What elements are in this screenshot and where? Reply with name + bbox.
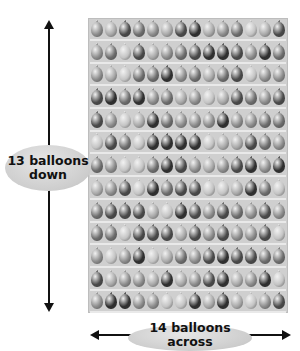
balloon-icon <box>231 90 243 105</box>
row-shelf <box>90 152 286 154</box>
balloon-icon <box>231 158 243 173</box>
balloon-icon <box>161 181 173 196</box>
balloon-icon <box>119 272 131 287</box>
balloon-icon <box>231 22 243 37</box>
balloon-icon <box>175 294 187 309</box>
balloon-icon <box>259 204 271 219</box>
balloon-icon <box>133 113 145 128</box>
balloon-icon <box>217 45 229 60</box>
balloon-icon <box>133 272 145 287</box>
row-shelf <box>90 107 286 109</box>
balloon-icon <box>189 67 201 82</box>
arrowhead-up-icon <box>44 20 54 29</box>
balloon-row <box>90 132 286 154</box>
row-shelf <box>90 311 286 313</box>
balloon-row <box>90 246 286 268</box>
arrowhead-left-icon <box>90 330 99 340</box>
balloon-icon <box>273 158 285 173</box>
balloon-icon <box>133 45 145 60</box>
balloon-icon <box>273 272 285 287</box>
balloon-icon <box>231 204 243 219</box>
balloon-icon <box>91 294 103 309</box>
balloon-icon <box>189 113 201 128</box>
balloon-icon <box>217 249 229 264</box>
balloon-icon <box>161 226 173 241</box>
balloon-icon <box>203 249 215 264</box>
balloon-icon <box>133 158 145 173</box>
balloon-row <box>90 19 286 41</box>
balloon-icon <box>161 204 173 219</box>
balloon-icon <box>189 249 201 264</box>
balloon-icon <box>147 204 159 219</box>
balloon-icon <box>133 22 145 37</box>
balloon-icon <box>245 204 257 219</box>
balloon-icon <box>175 113 187 128</box>
balloon-icon <box>161 90 173 105</box>
balloon-icon <box>245 113 257 128</box>
balloon-row <box>90 42 286 64</box>
rows-count-label-line1: 13 balloons <box>7 153 88 168</box>
balloon-icon <box>259 22 271 37</box>
balloon-icon <box>133 294 145 309</box>
balloon-icon <box>119 294 131 309</box>
balloon-icon <box>259 67 271 82</box>
balloon-icon <box>91 158 103 173</box>
row-shelf <box>90 243 286 245</box>
balloon-row <box>90 87 286 109</box>
balloon-icon <box>105 204 117 219</box>
balloon-icon <box>161 249 173 264</box>
balloon-icon <box>147 249 159 264</box>
balloon-icon <box>119 181 131 196</box>
balloon-row <box>90 223 286 245</box>
balloon-icon <box>231 67 243 82</box>
balloon-grid-panel <box>88 18 288 313</box>
balloon-icon <box>259 294 271 309</box>
balloon-icon <box>273 204 285 219</box>
balloon-icon <box>147 67 159 82</box>
balloon-icon <box>203 272 215 287</box>
balloon-icon <box>105 226 117 241</box>
balloon-icon <box>259 135 271 150</box>
arrowhead-right-icon <box>282 330 291 340</box>
balloon-icon <box>147 45 159 60</box>
balloon-icon <box>105 135 117 150</box>
balloon-icon <box>147 22 159 37</box>
balloon-icon <box>203 113 215 128</box>
balloon-icon <box>245 90 257 105</box>
balloon-icon <box>217 226 229 241</box>
balloon-icon <box>147 135 159 150</box>
balloon-row <box>90 64 286 86</box>
balloon-icon <box>273 249 285 264</box>
balloon-icon <box>161 22 173 37</box>
balloon-icon <box>91 135 103 150</box>
balloon-icon <box>245 249 257 264</box>
balloon-icon <box>217 67 229 82</box>
balloon-icon <box>189 294 201 309</box>
balloon-row <box>90 110 286 132</box>
balloon-icon <box>161 67 173 82</box>
balloon-icon <box>259 45 271 60</box>
balloon-icon <box>105 22 117 37</box>
balloon-icon <box>147 113 159 128</box>
balloon-icon <box>105 158 117 173</box>
balloon-icon <box>133 135 145 150</box>
balloon-icon <box>203 204 215 219</box>
balloon-icon <box>273 67 285 82</box>
columns-count-label-text: 14 balloons across <box>128 321 252 350</box>
balloon-icon <box>259 90 271 105</box>
balloon-icon <box>189 226 201 241</box>
balloon-row <box>90 155 286 177</box>
balloon-icon <box>203 135 215 150</box>
rows-count-label-line2: down <box>29 167 67 182</box>
balloon-icon <box>273 135 285 150</box>
balloon-icon <box>189 135 201 150</box>
balloon-icon <box>203 67 215 82</box>
balloon-icon <box>161 294 173 309</box>
balloon-icon <box>91 67 103 82</box>
balloon-icon <box>161 272 173 287</box>
balloon-row <box>90 178 286 200</box>
balloon-icon <box>203 226 215 241</box>
balloon-icon <box>147 272 159 287</box>
balloon-icon <box>203 45 215 60</box>
balloon-icon <box>217 113 229 128</box>
